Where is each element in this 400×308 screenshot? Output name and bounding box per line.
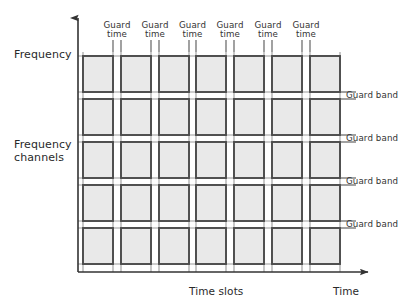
guard-time-label-line2: time <box>134 30 176 39</box>
slot-cell <box>234 56 264 92</box>
slot-cell <box>159 228 189 264</box>
slot-cell <box>159 185 189 221</box>
y-axis-frequency-label: Frequency <box>14 48 72 61</box>
time-slots-label: Time slots <box>189 286 243 298</box>
guard-time-label-line2: time <box>247 30 289 39</box>
guard-time-label: Guardtime <box>209 21 251 40</box>
guard-time-label-line2: time <box>285 30 327 39</box>
guard-time-label-line2: time <box>172 30 214 39</box>
slot-cell <box>121 99 151 135</box>
frequency-channels-label-line: Frequency <box>14 138 72 151</box>
slot-cell <box>121 142 151 178</box>
guard-time-label: Guardtime <box>247 21 289 40</box>
slot-cell <box>234 185 264 221</box>
guard-band-label: Guard band <box>346 90 398 102</box>
slot-cell <box>121 228 151 264</box>
guard-time-label: Guardtime <box>96 21 138 40</box>
slot-cell <box>272 142 302 178</box>
slot-cell <box>272 99 302 135</box>
diagram-canvas: Frequency Frequencychannels Time slots T… <box>0 0 400 308</box>
guard-time-label: Guardtime <box>285 21 327 40</box>
slot-cell <box>272 185 302 221</box>
slot-cell <box>83 56 113 92</box>
guard-band-label: Guard band <box>346 133 398 145</box>
slot-cell <box>159 56 189 92</box>
slot-cell <box>234 99 264 135</box>
slot-cell <box>159 142 189 178</box>
slot-cell <box>310 185 340 221</box>
slot-cell <box>272 228 302 264</box>
slot-cell <box>121 56 151 92</box>
slot-cell <box>310 99 340 135</box>
frequency-channels-label-line: channels <box>14 151 72 164</box>
slot-cell <box>196 99 226 135</box>
slot-cell <box>272 56 302 92</box>
slot-cell <box>83 142 113 178</box>
guard-time-label: Guardtime <box>172 21 214 40</box>
slot-cell <box>196 185 226 221</box>
slot-cell <box>234 228 264 264</box>
slot-cell <box>83 99 113 135</box>
shaded-cells-layer <box>83 56 340 264</box>
slot-cell <box>196 56 226 92</box>
slot-cell <box>310 142 340 178</box>
slot-cell <box>83 185 113 221</box>
slot-cell <box>196 228 226 264</box>
slot-cell <box>196 142 226 178</box>
guard-band-label: Guard band <box>346 176 398 188</box>
guard-band-label: Guard band <box>346 219 398 231</box>
guard-time-label-line2: time <box>209 30 251 39</box>
slot-cell <box>159 99 189 135</box>
slot-cell <box>83 228 113 264</box>
slot-cell <box>234 142 264 178</box>
frequency-channels-label: Frequencychannels <box>14 138 72 164</box>
slot-cell <box>310 56 340 92</box>
time-axis-label: Time <box>333 286 359 298</box>
slot-cell <box>121 185 151 221</box>
slot-cell <box>310 228 340 264</box>
guard-time-label: Guardtime <box>134 21 176 40</box>
guard-time-label-line2: time <box>96 30 138 39</box>
